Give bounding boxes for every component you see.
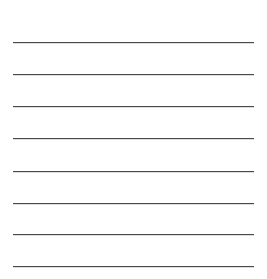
ruled-line-6 [13,203,254,204]
ruled-line-3 [13,106,254,107]
ruled-line-5 [13,171,254,172]
lined-paper-sheet [0,0,267,279]
ruled-line-2 [13,74,254,75]
ruled-line-8 [13,266,254,267]
ruled-line-7 [13,234,254,235]
ruled-line-1 [13,42,254,43]
ruled-line-4 [13,138,254,139]
